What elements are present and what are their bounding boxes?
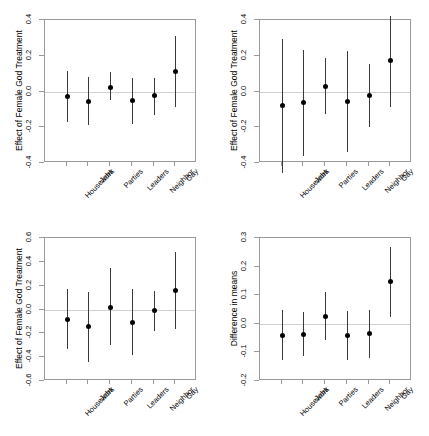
y-axis-tick-label: -0.2 xyxy=(23,114,35,138)
x-axis-tick-mark xyxy=(174,380,175,384)
x-axis-tick-mark xyxy=(368,162,369,166)
y-axis-tick-label: 0.3 xyxy=(238,225,250,249)
data-point xyxy=(280,333,285,338)
x-axis-tick-mark xyxy=(302,380,303,384)
y-axis-tick-label: 0.0 xyxy=(238,311,250,335)
y-axis-tick-mark xyxy=(39,55,44,56)
data-point xyxy=(280,103,285,108)
y-axis-tick-mark xyxy=(254,323,259,324)
y-axis-tick-label: 0.2 xyxy=(23,43,35,67)
x-axis-tick-mark xyxy=(66,380,67,384)
y-axis-tick-mark xyxy=(39,19,44,20)
x-axis-tick-mark xyxy=(281,380,282,384)
x-axis-tick-mark xyxy=(131,162,132,166)
data-point xyxy=(301,100,306,105)
x-axis-tick-mark xyxy=(389,162,390,166)
x-axis-tick-mark xyxy=(389,380,390,384)
data-point xyxy=(108,85,113,90)
y-axis-tick-mark xyxy=(254,351,259,352)
y-axis-tick-label: -0.4 xyxy=(23,150,35,174)
x-axis-tick-mark xyxy=(324,380,325,384)
y-axis-tick-mark xyxy=(39,356,44,357)
data-point xyxy=(345,333,350,338)
y-axis-tick-mark xyxy=(39,261,44,262)
x-axis-tick-label: Parties xyxy=(122,167,146,191)
x-axis-tick-mark xyxy=(153,380,154,384)
x-axis-tick-mark xyxy=(368,380,369,384)
panel-top-left: Effect of Female God Treatment0.40.20.0-… xyxy=(0,0,214,218)
y-axis-tick-mark xyxy=(39,332,44,333)
data-point xyxy=(173,288,178,293)
x-axis-tick-mark xyxy=(109,162,110,166)
y-axis-tick-mark xyxy=(254,91,259,92)
y-axis-tick-mark xyxy=(39,380,44,381)
data-point xyxy=(86,324,91,329)
x-axis-tick-label: Leaders xyxy=(360,385,386,411)
y-axis-tick-label: -0.6 xyxy=(23,368,35,392)
data-point xyxy=(367,331,372,336)
y-axis-tick-label: 0.4 xyxy=(238,7,250,31)
y-axis-tick-label: -0.1 xyxy=(238,339,250,363)
data-point xyxy=(65,317,70,322)
data-point xyxy=(108,305,113,310)
y-axis-tick-mark xyxy=(254,266,259,267)
x-axis-tick-mark xyxy=(281,162,282,166)
y-axis-tick-label: -0.4 xyxy=(238,150,250,174)
data-point xyxy=(173,69,178,74)
panel-bottom-right: Difference in means0.30.20.10.0-0.1-0.2H… xyxy=(215,218,429,436)
y-axis-tick-mark xyxy=(39,237,44,238)
x-axis-tick-label: Parties xyxy=(122,385,146,409)
data-point xyxy=(323,84,328,89)
data-point xyxy=(130,98,135,103)
plot-frame xyxy=(44,237,196,380)
x-axis-tick-mark xyxy=(174,162,175,166)
x-axis-tick-mark xyxy=(324,162,325,166)
y-axis-tick-mark xyxy=(39,309,44,310)
data-point xyxy=(323,314,328,319)
panel-bottom-left: Effect of Female God Treatment0.60.40.20… xyxy=(0,218,214,436)
x-axis-tick-label: Leaders xyxy=(145,167,171,193)
figure-canvas: Effect of Female God Treatment0.40.20.0-… xyxy=(0,0,429,436)
y-axis-tick-mark xyxy=(254,19,259,20)
plot-frame xyxy=(259,19,411,162)
x-axis-tick-mark xyxy=(109,380,110,384)
data-point xyxy=(301,332,306,337)
data-point xyxy=(130,320,135,325)
y-axis-tick-label: 0.0 xyxy=(238,79,250,103)
y-axis-tick-mark xyxy=(39,126,44,127)
x-axis-tick-mark xyxy=(346,162,347,166)
y-axis-tick-label: 0.1 xyxy=(238,282,250,306)
x-axis-tick-label: Parties xyxy=(337,385,361,409)
plot-frame xyxy=(44,19,196,162)
y-axis-tick-label: -0.2 xyxy=(238,368,250,392)
data-point xyxy=(388,58,393,63)
y-axis-tick-label: -0.2 xyxy=(23,320,35,344)
y-axis-tick-label: -0.2 xyxy=(238,114,250,138)
data-point xyxy=(388,279,393,284)
y-axis-tick-label: 0.6 xyxy=(23,225,35,249)
x-axis-tick-mark xyxy=(302,162,303,166)
x-axis-tick-mark xyxy=(153,162,154,166)
y-axis-tick-label: 0.4 xyxy=(23,7,35,31)
y-axis-tick-mark xyxy=(254,55,259,56)
y-axis-tick-mark xyxy=(39,91,44,92)
y-axis-tick-mark xyxy=(254,294,259,295)
x-axis-tick-mark xyxy=(87,380,88,384)
y-axis-tick-mark xyxy=(254,380,259,381)
x-axis-tick-mark xyxy=(87,162,88,166)
y-axis-tick-mark xyxy=(254,237,259,238)
y-axis-tick-mark xyxy=(39,285,44,286)
x-axis-tick-label: Leaders xyxy=(360,167,386,193)
data-point xyxy=(86,99,91,104)
data-point xyxy=(152,308,157,313)
x-axis-tick-label: Leaders xyxy=(145,385,171,411)
x-axis-tick-label: Parties xyxy=(337,167,361,191)
y-axis-tick-label: 0.2 xyxy=(238,43,250,67)
y-axis-tick-label: 0.2 xyxy=(23,273,35,297)
plot-frame xyxy=(259,237,411,380)
y-axis-tick-mark xyxy=(254,162,259,163)
y-axis-tick-label: 0.2 xyxy=(238,254,250,278)
y-axis-tick-label: 0.0 xyxy=(23,297,35,321)
y-axis-tick-mark xyxy=(39,162,44,163)
y-axis-tick-label: 0.4 xyxy=(23,249,35,273)
